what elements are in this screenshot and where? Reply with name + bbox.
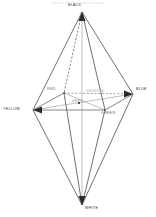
vertex-label-yellow: YELLOW [3,108,20,112]
vertex-label-white: WHITE [85,207,98,211]
edge-black-green [82,12,105,110]
vertex-label-grey: GREY [72,100,82,103]
marker-red [63,92,65,94]
edge-black-blue [82,12,133,94]
vertex-label-blue: BLUE [136,88,147,92]
hidden-upper-edges [64,12,82,93]
edge-black-red [64,12,82,93]
upper-pyramid-edges [33,12,133,110]
vertex-label-green: GREEN [101,112,116,116]
color-solid-svg [0,0,156,217]
edge-black-yellow [33,12,82,110]
vertex-label-magenta: MAGENTA [86,90,104,93]
color-solid-figure: BLACK WHITE YELLOW BLUE RED GREEN GREY M… [0,0,156,217]
edge-green-white [82,110,105,205]
diagonal-red-green [64,93,105,110]
figure-caption: Colour solid bi-pyramid diagram [0,1,156,5]
internal-diagonals [33,12,133,205]
vertex-markers [33,12,133,205]
vertex-label-red: RED [47,88,56,92]
